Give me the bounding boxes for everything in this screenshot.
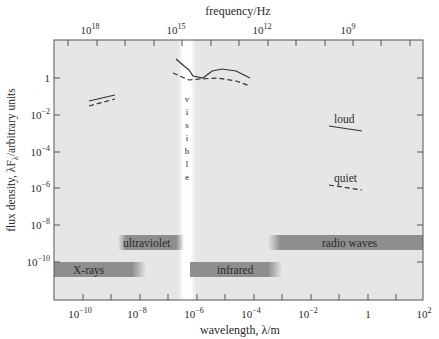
svg-text:1: 1 [45,72,51,84]
svg-text:10−10: 10−10 [26,254,50,268]
svg-text:1015: 1015 [167,22,186,36]
top-tick-labels: 1018 1015 1012 109 [81,22,356,36]
svg-text:10−4: 10−4 [30,144,50,158]
svg-text:10−10: 10−10 [68,306,92,320]
left-tick-labels: 1 10−2 10−4 10−6 10−8 10−10 [26,72,50,268]
visible-letter: v [185,94,190,104]
band-label-radio-waves: radio waves [322,237,378,249]
top-axis-title: frequency/Hz [205,4,270,18]
visible-strip [178,40,196,300]
svg-text:10−8: 10−8 [127,306,147,320]
visible-letter: s [185,120,189,130]
svg-text:10−8: 10−8 [30,217,50,231]
annotation-quiet: quiet [334,172,358,185]
band-label-ultraviolet: ultraviolet [123,237,171,249]
svg-text:102: 102 [417,306,432,320]
plot-area [54,40,423,300]
annotation-loud: loud [334,113,355,125]
x-axis-title: wavelength, λ/m [200,323,280,337]
svg-text:1018: 1018 [81,22,100,36]
y-axis-title: flux density, λFλ/arbitrary units [5,88,20,232]
svg-text:10−2: 10−2 [30,107,50,121]
flux-density-chart: X-rays ultraviolet infrared radio waves … [0,0,439,339]
band-label-xrays: X-rays [73,264,105,277]
svg-text:10−2: 10−2 [298,306,318,320]
svg-text:10−6: 10−6 [30,180,50,194]
svg-text:1012: 1012 [253,22,272,36]
svg-text:1: 1 [365,308,371,320]
visible-letter: b [185,146,190,156]
visible-letter: e [185,172,189,182]
svg-text:109: 109 [341,22,356,36]
band-label-infrared: infrared [217,264,254,276]
svg-text:10−6: 10−6 [184,306,204,320]
svg-text:10−4: 10−4 [241,306,261,320]
bottom-tick-labels: 10−10 10−8 10−6 10−4 10−2 1 102 [68,306,431,320]
